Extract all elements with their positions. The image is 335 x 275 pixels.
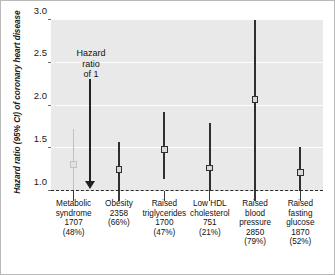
y-axis-title: Hazard ratio (95% CI) of coronary heart … bbox=[12, 2, 22, 202]
x-axis-label-line: (66%) bbox=[97, 218, 140, 228]
x-axis-label-line: 2850 bbox=[233, 228, 276, 238]
x-axis-label-line: (52%) bbox=[279, 237, 322, 247]
forest-plot-figure: Hazard ratio (95% CI) of coronary heart … bbox=[0, 0, 335, 275]
x-axis-category-label[interactable]: Raisedbloodpressure2850(79%) bbox=[232, 199, 277, 269]
x-axis-category-label[interactable]: Obesity2358(66%) bbox=[96, 199, 141, 269]
y-axis-tick-label: 3.0 bbox=[34, 6, 47, 16]
hazard-ratio-marker bbox=[161, 146, 168, 153]
x-axis-label-line: Raised bbox=[279, 199, 322, 209]
x-axis-label-line: 1700 bbox=[143, 218, 187, 228]
y-axis-tick-mark bbox=[48, 62, 51, 63]
x-axis-label-line: Metabolic bbox=[52, 199, 95, 209]
y-axis-tick-label: 1.0 bbox=[34, 177, 47, 187]
x-axis-label-line: Obesity bbox=[97, 199, 140, 209]
x-axis-label-line: 1870 bbox=[279, 228, 322, 238]
y-axis-tick-mark bbox=[48, 105, 51, 106]
x-axis-label-line: fasting bbox=[279, 209, 322, 219]
hazard-ratio-marker bbox=[70, 161, 77, 168]
y-axis-tick-mark bbox=[48, 147, 51, 148]
confidence-interval-whisker bbox=[209, 123, 211, 191]
hazard-ratio-marker bbox=[297, 169, 304, 176]
y-axis-tick-label: 2.0 bbox=[34, 91, 47, 101]
hazard-ratio-marker bbox=[252, 96, 259, 103]
annotation-line: ratio bbox=[59, 59, 123, 70]
x-axis-label-line: 1707 bbox=[52, 218, 95, 228]
annotation-line: Hazard bbox=[59, 48, 123, 59]
y-axis-tick-label: 2.5 bbox=[34, 49, 47, 59]
x-axis-label-line: Raised bbox=[233, 199, 276, 209]
x-axis-label-line: blood bbox=[233, 209, 276, 219]
y-axis-tick-label: 1.5 bbox=[34, 134, 47, 144]
confidence-interval-whisker bbox=[73, 129, 75, 191]
x-axis-label-line: (47%) bbox=[143, 228, 187, 238]
annotation-arrow-head bbox=[85, 181, 95, 189]
x-axis-label-line: triglycerides bbox=[143, 209, 187, 219]
x-axis-label-line: Raised bbox=[143, 199, 187, 209]
x-axis-label-line: (21%) bbox=[188, 228, 231, 238]
gridline bbox=[51, 147, 323, 148]
x-axis-label-line: glucose bbox=[279, 218, 322, 228]
x-axis-label-line: syndrome bbox=[52, 209, 95, 219]
hazard-ratio-marker bbox=[206, 165, 213, 172]
hazard-ratio-marker bbox=[116, 166, 123, 173]
gridline bbox=[51, 19, 323, 20]
x-axis-label-line: (48%) bbox=[52, 228, 95, 238]
x-axis-label-line: (79%) bbox=[233, 237, 276, 247]
reference-line-hazard-ratio-1 bbox=[51, 190, 323, 191]
x-axis-category-label[interactable]: Raisedfastingglucose1870(52%) bbox=[278, 199, 323, 269]
hazard-ratio-annotation: Hazardratioof 1 bbox=[59, 48, 123, 80]
x-axis-category-label[interactable]: Metabolicsyndrome1707(48%) bbox=[51, 199, 96, 269]
x-axis-label-line: cholesterol bbox=[188, 209, 231, 219]
x-axis-labels: Metabolicsyndrome1707(48%)Obesity2358(66… bbox=[51, 199, 323, 269]
annotation-arrow-line bbox=[89, 79, 91, 183]
confidence-interval-whisker bbox=[254, 20, 256, 191]
x-axis-label-line: Low HDL bbox=[188, 199, 231, 209]
x-axis-label-line: 751 bbox=[188, 218, 231, 228]
x-axis-label-line: pressure bbox=[233, 218, 276, 228]
x-axis-label-line: 2358 bbox=[97, 209, 140, 219]
x-axis-category-label[interactable]: Low HDLcholesterol751(21%) bbox=[187, 199, 232, 269]
y-axis-tick-mark bbox=[48, 19, 51, 20]
gridline bbox=[51, 105, 323, 106]
annotation-line: of 1 bbox=[59, 69, 123, 80]
plot-area: 1.01.52.02.53.0 bbox=[51, 20, 323, 191]
x-axis-category-label[interactable]: Raisedtriglycerides1700(47%) bbox=[142, 199, 188, 269]
